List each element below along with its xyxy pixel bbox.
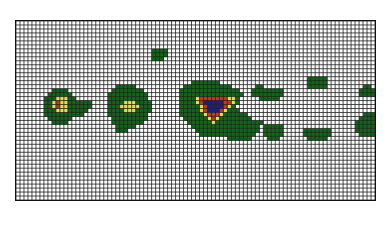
heatmap-plot <box>15 20 376 201</box>
heatmap-grid <box>16 21 375 200</box>
